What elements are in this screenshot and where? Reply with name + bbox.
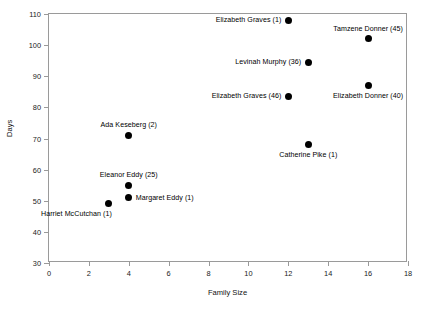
data-point <box>305 141 312 148</box>
y-tick-label: 60 <box>33 165 41 174</box>
data-point <box>125 182 132 189</box>
x-tick-label: 0 <box>47 269 51 278</box>
y-tick-label: 100 <box>29 41 41 50</box>
y-tick-mark <box>44 170 49 171</box>
scatter-chart: 30405060708090100110 024681012141618 Eli… <box>0 0 423 309</box>
x-tick-mark <box>169 261 170 266</box>
x-tick-label: 2 <box>87 269 91 278</box>
y-tick-mark <box>44 139 49 140</box>
data-point-label: Levinah Murphy (36) <box>235 58 301 66</box>
y-tick-mark <box>44 14 49 15</box>
x-tick-mark <box>209 261 210 266</box>
y-tick-label: 80 <box>33 103 41 112</box>
x-tick-mark <box>288 261 289 266</box>
data-point <box>285 93 292 100</box>
x-tick-mark <box>89 261 90 266</box>
x-tick-label: 12 <box>284 269 292 278</box>
data-point-label: Catherine Pike (1) <box>279 151 337 159</box>
data-point-label: Elizabeth Donner (40) <box>333 92 403 100</box>
y-tick-mark <box>44 201 49 202</box>
data-point-label: Margaret Eddy (1) <box>136 194 194 202</box>
x-tick-label: 16 <box>364 269 372 278</box>
x-tick-label: 14 <box>324 269 332 278</box>
plot-area: 30405060708090100110 024681012141618 Eli… <box>48 13 407 262</box>
data-point <box>365 82 372 89</box>
y-tick-mark <box>44 45 49 46</box>
y-tick-label: 70 <box>33 134 41 143</box>
data-point-label: Elizabeth Graves (46) <box>212 92 282 100</box>
x-tick-mark <box>49 261 50 266</box>
data-point <box>125 194 132 201</box>
data-point <box>285 17 292 24</box>
x-tick-label: 6 <box>167 269 171 278</box>
y-tick-label: 110 <box>29 10 41 19</box>
x-tick-label: 10 <box>244 269 252 278</box>
data-point <box>105 200 112 207</box>
x-tick-mark <box>129 261 130 266</box>
y-tick-mark <box>44 76 49 77</box>
x-tick-label: 18 <box>404 269 412 278</box>
x-tick-label: 4 <box>127 269 131 278</box>
data-point-label: Eleanor Eddy (25) <box>100 171 158 179</box>
y-tick-mark <box>44 232 49 233</box>
data-point <box>365 35 372 42</box>
data-point-label: Harriet McCutchan (1) <box>41 210 112 218</box>
y-tick-label: 50 <box>33 196 41 205</box>
data-point-label: Elizabeth Graves (1) <box>216 16 282 24</box>
x-axis-title: Family Size <box>48 288 407 297</box>
x-tick-mark <box>248 261 249 266</box>
y-tick-mark <box>44 107 49 108</box>
y-tick-label: 30 <box>33 259 41 268</box>
x-tick-mark <box>408 261 409 266</box>
data-point-label: Ada Keseberg (2) <box>101 121 157 129</box>
y-tick-label: 40 <box>33 227 41 236</box>
x-tick-label: 8 <box>206 269 210 278</box>
x-tick-mark <box>328 261 329 266</box>
x-tick-mark <box>368 261 369 266</box>
data-point-label: Tamzene Donner (45) <box>333 25 403 33</box>
data-point <box>125 132 132 139</box>
y-axis-title: Days <box>5 120 14 137</box>
data-point <box>305 59 312 66</box>
y-tick-label: 90 <box>33 72 41 81</box>
